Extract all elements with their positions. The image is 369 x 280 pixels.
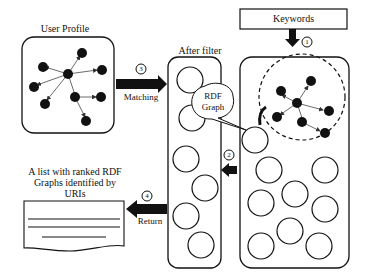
step-3-number: 3 [136,64,146,74]
result-list-caption-line1: A list with ranked RDF [20,166,130,177]
selected-graph-region [259,54,345,140]
result-list-caption-line3: URIs [20,188,130,199]
after-filter-label: After filter [168,45,232,56]
user-profile-label: User Profile [30,23,100,34]
user-profile-nodes [29,48,107,126]
rdf-graph-callout-line1: RDF [196,91,230,102]
rdf-graph-callout-line2: Graph [196,102,230,113]
diagram-canvas [0,0,369,280]
matching-label: Matching [116,92,166,103]
result-list-caption-line2: Graphs identified by [20,177,130,188]
return-label: Return [134,216,166,227]
step-2-number: 2 [224,150,234,160]
step-4-number: 4 [142,191,152,201]
keywords-label: Keywords [240,13,347,24]
filter-arrow [221,163,237,177]
keywords-arrow [285,29,300,47]
rdf-store-items [242,127,338,259]
matching-arrow [116,75,167,93]
rdf-graph-nodes [272,76,334,138]
step-1-number: 1 [302,37,312,47]
result-list-document [24,201,124,251]
